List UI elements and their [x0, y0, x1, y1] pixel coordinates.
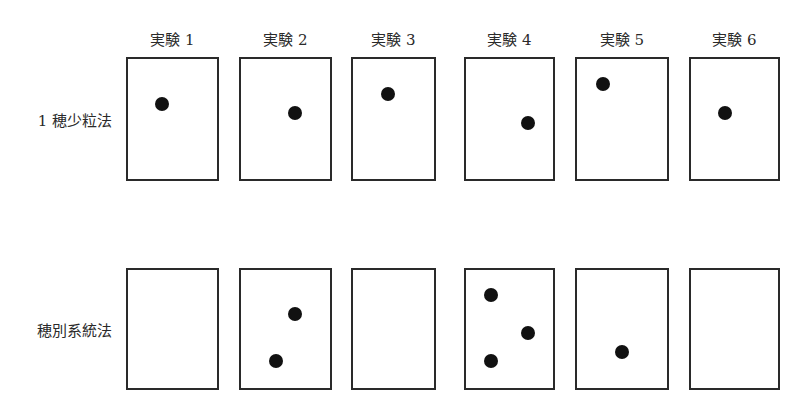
field-box-row1-exp2: [239, 57, 332, 181]
column-label-experiment-3: 実験 3: [371, 28, 415, 49]
field-box-row1-exp6: [689, 57, 780, 181]
dot-marker: [521, 116, 535, 130]
dot-marker: [381, 87, 395, 101]
column-label-experiment-5: 実験 5: [600, 28, 644, 49]
field-box-row2-exp2: [239, 268, 332, 390]
dot-marker: [484, 288, 498, 302]
dot-marker: [615, 345, 629, 359]
dot-marker: [155, 97, 169, 111]
column-label-experiment-6: 実験 6: [712, 28, 756, 49]
column-label-experiment-1: 実験 1: [150, 28, 194, 49]
field-box-row1-exp1: [126, 57, 219, 181]
field-box-row2-exp1: [126, 268, 219, 390]
column-label-experiment-4: 実験 4: [487, 28, 531, 49]
field-box-row2-exp6: [689, 268, 780, 390]
field-box-row1-exp5: [575, 57, 669, 181]
dot-marker: [288, 106, 302, 120]
field-box-row2-exp3: [351, 268, 436, 390]
row-label-1: 1 穂少粒法: [0, 109, 112, 130]
dot-marker: [596, 77, 610, 91]
dot-marker: [484, 354, 498, 368]
field-box-row1-exp4: [464, 57, 555, 181]
field-box-row1-exp3: [351, 57, 436, 181]
dot-marker: [521, 326, 535, 340]
field-box-row2-exp5: [575, 268, 669, 390]
column-label-experiment-2: 実験 2: [263, 28, 307, 49]
dot-marker: [288, 307, 302, 321]
dot-marker: [718, 106, 732, 120]
field-box-row2-exp4: [464, 268, 555, 390]
dot-marker: [269, 354, 283, 368]
row-label-2: 穂別系統法: [0, 319, 112, 340]
